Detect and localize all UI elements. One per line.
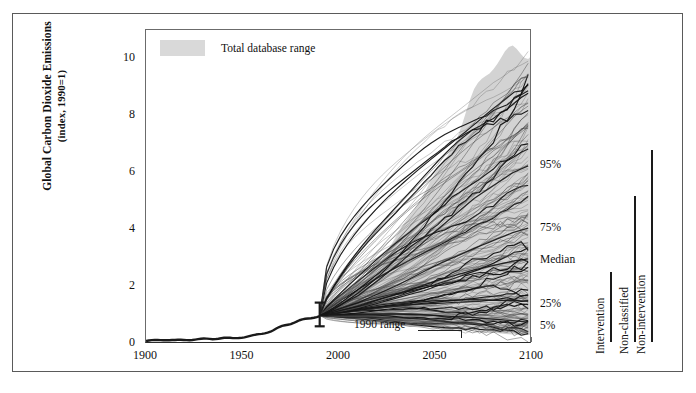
annotation-leader-line [418, 330, 462, 331]
annotation-1990-range: 1990 range [354, 318, 405, 330]
y-tick-label-4: 4 [101, 221, 135, 236]
legend: Total database range [160, 40, 315, 56]
y-axis-label-line2: (index, 1990=1) [54, 0, 68, 226]
percentile-label-p95: 95% [540, 158, 561, 170]
bracket-label-intervention: Intervention [594, 298, 606, 354]
percentile-label-p75: 75% [540, 221, 561, 233]
y-axis-label: Global Carbon Dioxide Emissions (index, … [40, 0, 68, 226]
y-tick-label-6: 6 [101, 164, 135, 179]
bracket-label-non-intervention: Non-intervention [635, 275, 647, 354]
y-axis-label-line1: Global Carbon Dioxide Emissions [40, 0, 54, 226]
percentile-label-p5: 5% [540, 319, 555, 331]
bracket-line-intervention [610, 272, 612, 342]
total-database-range-band [320, 45, 531, 334]
plot-area: Total database range 1990 range [145, 29, 531, 343]
percentile-label-median: Median [540, 253, 575, 265]
x-minor-tick [531, 337, 532, 342]
legend-label: Total database range [221, 42, 315, 54]
y-tick-label-8: 8 [101, 107, 135, 122]
percentile-label-p25: 25% [540, 297, 561, 309]
x-tick-label-2000: 2000 [308, 348, 368, 363]
x-tick-label-2100: 2100 [501, 348, 561, 363]
legend-swatch-total-database-range [160, 40, 205, 56]
historical-emissions-line [146, 316, 320, 341]
x-tick-label-1900: 1900 [115, 348, 175, 363]
figure-root: Global Carbon Dioxide Emissions (index, … [0, 0, 696, 393]
x-tick-label-1950: 1950 [212, 348, 272, 363]
annotation-leader-elbow [461, 330, 462, 338]
bracket-label-non-classified: Non-classified [618, 287, 630, 354]
y-tick-label-10: 10 [101, 50, 135, 65]
scenario-spaghetti-plot [146, 30, 531, 343]
bracket-line-non-intervention [651, 150, 653, 342]
y-tick-label-2: 2 [101, 278, 135, 293]
x-tick-label-2050: 2050 [405, 348, 465, 363]
